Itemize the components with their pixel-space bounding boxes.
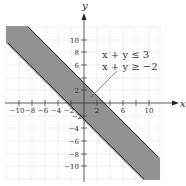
y-tick-label: 8 (75, 49, 79, 57)
boundary-line-x-plus-y-eq-3 (28, 27, 158, 157)
x-tick-label: 2 (95, 107, 99, 115)
y-tick-label: −10 (64, 163, 79, 171)
y-tick-label: −6 (69, 138, 80, 146)
x-tick-label: −4 (51, 107, 62, 115)
x-axis-arrow-icon (172, 101, 179, 106)
y-tick-label: 2 (75, 87, 79, 95)
inequality-2-label: x + y ≥ −2 (102, 61, 158, 72)
x-tick-label: −10 (10, 107, 25, 115)
x-tick-label: 10 (145, 107, 154, 115)
x-tick-label: −8 (25, 107, 35, 115)
y-tick-label: −2 (72, 113, 82, 121)
annotation-leader-line (91, 71, 117, 97)
y-axis-label: y (81, 0, 88, 11)
x-tick-label: 6 (121, 107, 126, 115)
y-axis-arrow-icon (82, 13, 87, 20)
x-axis-label: x (180, 98, 186, 109)
y-tick-label: 10 (70, 37, 79, 45)
inequality-1-label: x + y ≤ 3 (102, 49, 149, 60)
y-tick-label: −8 (69, 151, 79, 159)
y-tick-label: 6 (75, 62, 80, 70)
y-tick-label: −4 (69, 125, 80, 133)
graph-canvas: −10 −8 −6 −4 −2 2 6 10 10 8 6 2 −2 −4 −6… (0, 0, 186, 186)
x-tick-label: −6 (38, 107, 49, 115)
